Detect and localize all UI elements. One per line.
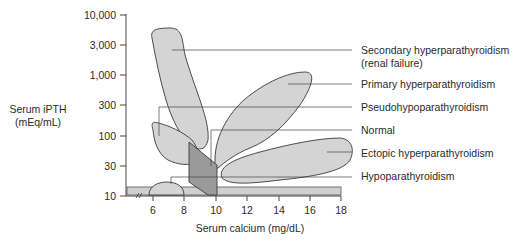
label-normal: Normal xyxy=(361,124,395,136)
x-axis-ticks xyxy=(153,196,341,201)
label-ectopic-hyperparathyroidism: Ectopic hyperparathyroidism xyxy=(361,147,493,159)
y-tick-label: 10 xyxy=(76,190,116,202)
y-tick-label: 30 xyxy=(76,160,116,172)
y-axis-ticks xyxy=(120,15,126,196)
label-secondary-hyperparathyroidism: Secondary hyperparathyroidism xyxy=(361,44,509,56)
diagram-canvas xyxy=(0,0,519,245)
y-axis-title-line1: Serum iPTH xyxy=(2,103,74,116)
y-tick-label: 3,000 xyxy=(76,39,116,51)
x-tick-label: 16 xyxy=(300,204,320,216)
y-tick-label: 1,000 xyxy=(76,69,116,81)
x-tick-label: 18 xyxy=(331,204,351,216)
label-pseudohypoparathyroidism: Pseudohypoparathyroidism xyxy=(361,101,488,113)
label-primary-hyperparathyroidism: Primary hyperparathyroidism xyxy=(361,78,495,90)
x-tick-label: 14 xyxy=(269,204,289,216)
y-tick-label: 10,000 xyxy=(76,9,116,21)
x-axis-title: Serum calcium (mg/dL) xyxy=(170,222,330,235)
x-tick-label: 8 xyxy=(174,204,194,216)
y-tick-label: 300 xyxy=(76,99,116,111)
label-hypoparathyroidism: Hypoparathyroidism xyxy=(361,170,454,182)
x-tick-label: 10 xyxy=(206,204,226,216)
region-hypoparathyroidism xyxy=(149,182,184,195)
y-axis-title: Serum iPTH (mEq/mL) xyxy=(2,103,74,129)
x-tick-label: 6 xyxy=(143,204,163,216)
x-tick-label: 12 xyxy=(237,204,257,216)
y-axis-title-line2: (mEq/mL) xyxy=(2,116,74,129)
y-tick-label: 100 xyxy=(76,130,116,142)
label-secondary-subtitle: (renal failure) xyxy=(361,57,423,69)
